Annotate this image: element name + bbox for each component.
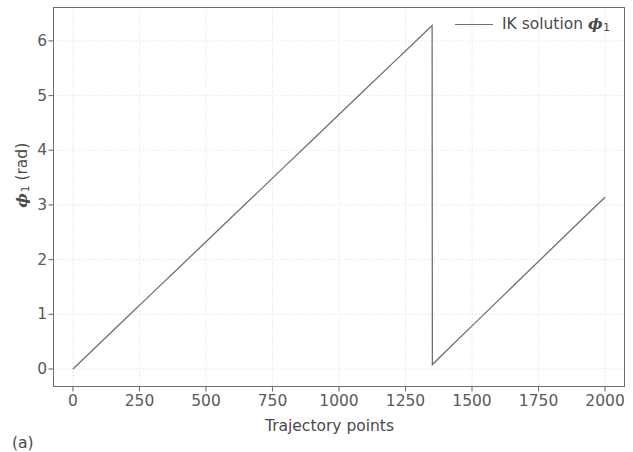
x-tick-label: 250 bbox=[125, 392, 155, 410]
legend: IK solution ϕ1 bbox=[455, 14, 610, 34]
legend-label-prefix: IK solution bbox=[502, 15, 588, 33]
y-tick-label: 1 bbox=[17, 305, 47, 323]
legend-line-swatch bbox=[455, 24, 493, 25]
x-tick-label: 500 bbox=[191, 392, 221, 410]
x-axis-title-text: Trajectory points bbox=[265, 417, 394, 435]
x-tick-label: 1750 bbox=[519, 392, 558, 410]
y-axis-title-subscript: 1 bbox=[19, 185, 32, 193]
legend-entry-label: IK solution ϕ1 bbox=[502, 14, 610, 34]
x-axis-title: Trajectory points bbox=[0, 417, 633, 435]
x-tick-label: 2000 bbox=[585, 392, 624, 410]
x-tick-label: 1000 bbox=[319, 392, 358, 410]
y-axis-title-symbol: ϕ bbox=[12, 193, 31, 208]
x-tick-label: 0 bbox=[68, 392, 78, 410]
subfigure-caption: (a) bbox=[12, 434, 34, 452]
y-axis-title-suffix: (rad) bbox=[13, 143, 31, 186]
x-tick-label: 750 bbox=[258, 392, 288, 410]
legend-label-subscript: 1 bbox=[603, 21, 611, 34]
y-axis-title: ϕ1 (rad) bbox=[12, 75, 32, 275]
y-tick-label: 6 bbox=[17, 32, 47, 50]
x-axis-tick-labels: 025050075010001250150017502000 bbox=[0, 392, 633, 416]
x-tick-label: 1250 bbox=[386, 392, 425, 410]
y-tick-label: 0 bbox=[17, 360, 47, 378]
x-tick-label: 1500 bbox=[452, 392, 491, 410]
plot-frame bbox=[53, 7, 625, 387]
legend-label-symbol: ϕ bbox=[588, 14, 603, 33]
